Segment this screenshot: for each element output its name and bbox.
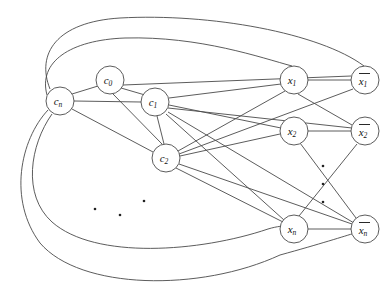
edge-c2-nxn [179, 164, 352, 224]
arc-edge-cn-nx1 [46, 17, 364, 89]
edge-c0-c1 [121, 88, 145, 95]
arc-edge-cn-xn [32, 114, 285, 248]
edge-xn-nx2 [299, 144, 357, 216]
node-c2[interactable]: c2 [152, 144, 180, 172]
edge-cn-c0 [72, 86, 98, 94]
edge-c1-nxn [168, 112, 354, 223]
node-nxn[interactable]: xn [351, 215, 379, 243]
edge-c2-xn [176, 168, 283, 222]
literal-ellipsis-dot-3 [322, 201, 325, 204]
graph-figure: cnc0c1c2x1x1x2x2xnxn [0, 0, 392, 293]
edge-cn-c2 [72, 109, 153, 152]
node-c1[interactable]: c1 [141, 88, 169, 116]
straight-edge-group [72, 76, 357, 229]
edge-c1-xn [166, 114, 284, 220]
node-x1[interactable]: x1 [280, 66, 308, 94]
clause-ellipsis-dot-3 [143, 200, 146, 203]
edge-c2-x2 [180, 134, 280, 156]
node-xn[interactable]: xn [280, 215, 308, 243]
node-x2[interactable]: x2 [280, 117, 308, 145]
clause-ellipsis-dot-2 [119, 214, 122, 217]
clause-ellipsis-dot-1 [94, 208, 97, 211]
edge-c0-nx1 [123, 76, 351, 85]
edge-c2-nx1 [179, 89, 353, 154]
edge-c1-nx2 [168, 108, 352, 128]
literal-ellipsis-dot-1 [322, 165, 325, 168]
node-c0[interactable]: c0 [96, 66, 124, 94]
graph-canvas: cnc0c1c2x1x1x2x2xnxn [0, 0, 392, 293]
node-nx2[interactable]: x2 [351, 117, 379, 145]
node-nx1[interactable]: x1 [351, 66, 379, 94]
ellipsis-group [94, 165, 325, 217]
node-cn[interactable]: cn [46, 87, 74, 115]
edge-c1-x1 [169, 84, 281, 98]
edge-c2-x1 [178, 91, 285, 151]
edge-x1-nx2 [298, 94, 352, 125]
arc-edge-cn-x1 [45, 38, 292, 95]
literal-ellipsis-dot-2 [322, 183, 325, 186]
edge-cn-c1 [74, 101, 141, 102]
